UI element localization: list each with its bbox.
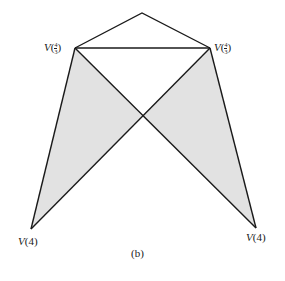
vertex-label-upper-right: V(43) xyxy=(214,42,231,55)
fraction-denominator: 3 xyxy=(54,49,57,55)
fraction-numerator: 4 xyxy=(54,42,57,49)
label-variable: V xyxy=(18,235,25,247)
fraction-denominator: 3 xyxy=(224,49,227,55)
vertex-label-upper-left: V(43) xyxy=(44,42,61,55)
top-triangle-edges xyxy=(75,13,210,48)
fraction: 43 xyxy=(224,42,227,55)
label-argument: (4) xyxy=(253,231,266,243)
fraction-numerator: 4 xyxy=(224,42,227,49)
figure-caption: (b) xyxy=(131,247,144,259)
vertex-label-bottom-right: V(4) xyxy=(246,232,266,243)
vertex-label-bottom-left: V(4) xyxy=(18,236,38,247)
label-variable: V xyxy=(44,41,51,53)
shaded-region-left xyxy=(31,48,142,229)
label-argument: (4) xyxy=(25,235,38,247)
fraction: 43 xyxy=(54,42,57,55)
shaded-region-right xyxy=(142,48,256,228)
label-variable: V xyxy=(214,41,221,53)
graph-diagram xyxy=(0,0,285,281)
label-variable: V xyxy=(246,231,253,243)
